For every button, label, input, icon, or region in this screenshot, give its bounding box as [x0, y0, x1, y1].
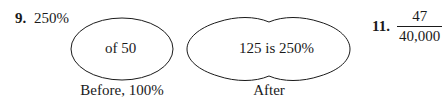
- before-inner-label: of 50: [105, 40, 136, 57]
- fraction-denominator: 40,000: [397, 27, 442, 45]
- fraction-numerator: 47: [410, 8, 429, 26]
- after-inner-label: 125 is 250%: [239, 40, 314, 57]
- problem-11-fraction: 47 40,000: [397, 8, 442, 44]
- problem-11-number: 11.: [372, 18, 390, 35]
- after-caption: After: [229, 82, 309, 99]
- before-caption: Before, 100%: [72, 82, 172, 99]
